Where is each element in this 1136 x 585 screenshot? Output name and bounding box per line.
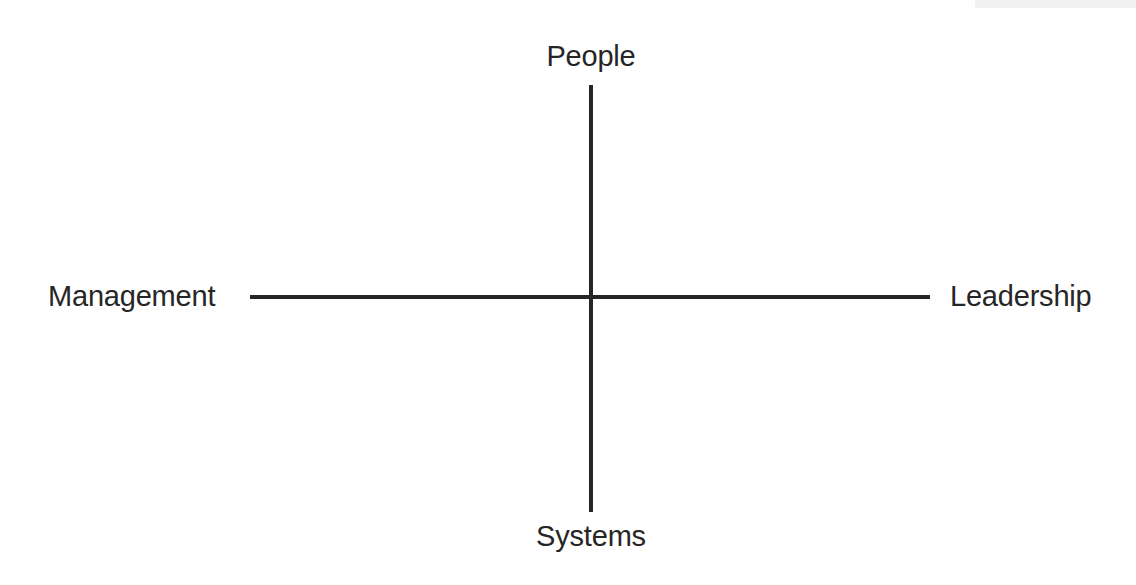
- axis-label-people: People: [546, 42, 635, 71]
- scan-artifact-band: [975, 0, 1136, 8]
- vertical-axis-line: [589, 85, 593, 512]
- diagram-canvas: People Systems Management Leadership: [0, 0, 1136, 585]
- axis-label-systems: Systems: [536, 522, 646, 551]
- axis-label-leadership: Leadership: [950, 282, 1092, 311]
- axis-label-management: Management: [48, 282, 215, 311]
